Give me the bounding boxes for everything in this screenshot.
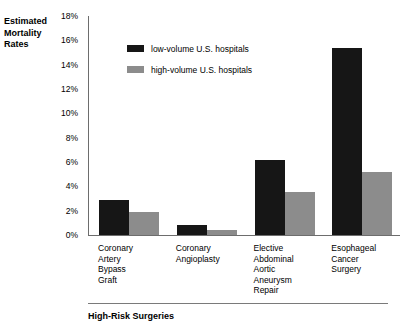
legend-label: high-volume U.S. hospitals [151,65,252,75]
bar-low-volume [177,225,207,235]
category-label: Esophageal Cancer Surgery [331,243,403,275]
bar-group [322,16,400,235]
y-axis-tick-label: 16% [52,35,78,45]
y-axis-tick-label: 10% [52,108,78,118]
x-axis-category-labels: Coronary Artery Bypass GraftCoronary Ang… [88,243,400,295]
bar-low-volume [332,48,362,235]
y-axis-tick-label: 14% [52,60,78,70]
legend-swatch-icon [127,45,144,52]
y-axis-tick-label: 4% [52,181,78,191]
bar-low-volume [99,200,129,235]
y-axis-tick-label: 12% [52,84,78,94]
bar-group [245,16,323,235]
y-axis-tick-label: 8% [52,133,78,143]
bar-low-volume [255,160,285,235]
y-axis-tick-label: 6% [52,157,78,167]
x-axis-line [88,235,400,236]
x-axis-title-rule [88,303,388,304]
legend-label: low-volume U.S. hospitals [151,44,249,54]
bar-high-volume [129,212,159,235]
category-label: Coronary Angioplasty [176,243,248,264]
x-axis-title: High-Risk Surgeries [88,311,174,321]
bar-high-volume [207,230,237,235]
category-label: Coronary Artery Bypass Graft [98,243,170,285]
y-axis-tick-label: 2% [52,206,78,216]
bar-high-volume [285,192,315,235]
legend-swatch-icon [127,66,144,73]
legend-item: high-volume U.S. hospitals [127,63,252,76]
mortality-rates-bar-chart: Estimated Mortality Rates 18%16%14%12%10… [0,0,405,325]
category-label: Elective Abdominal Aortic Aneurysm Repai… [254,243,326,296]
y-axis-tick-label: 0% [52,230,78,240]
bar-high-volume [362,172,392,235]
y-axis-tick-label: 18% [52,11,78,21]
chart-legend: low-volume U.S. hospitalshigh-volume U.S… [127,42,252,84]
legend-item: low-volume U.S. hospitals [127,42,252,55]
